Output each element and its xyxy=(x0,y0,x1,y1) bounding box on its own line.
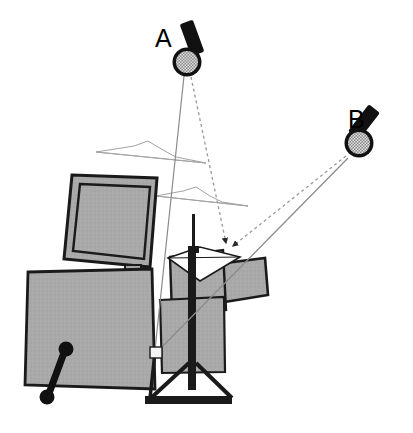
vertical-post xyxy=(188,214,199,253)
monitor-outer-frame xyxy=(64,175,157,267)
white-square-node xyxy=(150,347,162,358)
measurement-setup-diagram: A B xyxy=(0,0,413,433)
beam-dashed-group xyxy=(191,77,346,246)
handle-knob-lower xyxy=(40,390,55,405)
beam-dashed-from-a xyxy=(191,77,226,243)
waveform-lower-icon xyxy=(156,187,248,206)
mic-a-head-mesh-icon xyxy=(176,51,198,73)
diagram-canvas: A B xyxy=(0,0,413,433)
microphone-b[interactable]: B xyxy=(345,104,380,157)
beam-dashed-from-b xyxy=(233,156,346,246)
tilted-monitor-panel xyxy=(64,175,157,276)
large-left-panel xyxy=(25,269,155,389)
left-panel-shape xyxy=(25,269,155,389)
handle-knob-upper xyxy=(59,342,74,357)
waveform-upper-icon xyxy=(96,141,206,163)
mic-b-head-mesh-icon xyxy=(348,132,370,154)
node-marker-shape xyxy=(150,347,162,358)
waveform-upper-baseline xyxy=(96,152,206,163)
tripod-foot-right xyxy=(188,396,232,404)
post-shaft xyxy=(192,214,195,246)
mic-a-label: A xyxy=(155,24,172,52)
microphone-a[interactable]: A xyxy=(155,20,204,77)
mic-b-label: B xyxy=(348,105,365,133)
